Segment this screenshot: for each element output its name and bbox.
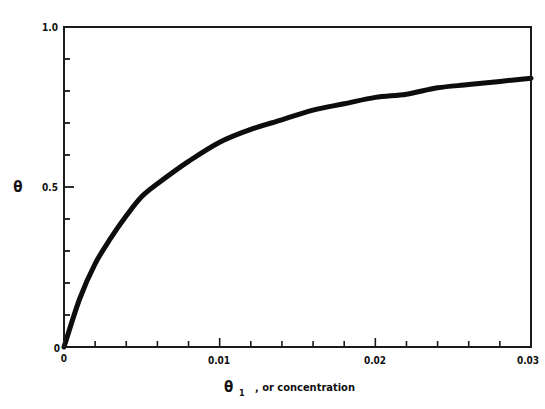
x-tick-label-0: 0 <box>61 353 67 364</box>
x-axis-label: θ <box>224 378 233 396</box>
x-tick-label-0.02: 0.02 <box>364 355 386 366</box>
chart: 1.0 0.5 0 0 0.01 0.02 0.03 θ θ 1 , or co… <box>0 0 545 409</box>
tick-marks <box>64 59 500 347</box>
x-axis-label-subscript: 1 <box>239 388 245 398</box>
plot-frame <box>64 27 531 347</box>
x-tick-label-0.03: 0.03 <box>517 355 539 366</box>
x-axis-label-text: , or concentration <box>255 381 355 394</box>
data-curve <box>64 78 531 347</box>
x-axis-label-theta: θ <box>224 378 233 396</box>
y-tick-label-1.0: 1.0 <box>42 22 58 33</box>
y-axis-label: θ <box>13 178 22 196</box>
x-tick-label-0.01: 0.01 <box>208 355 230 366</box>
y-tick-label-0.5: 0.5 <box>42 182 58 193</box>
y-tick-label-0: 0 <box>54 343 60 354</box>
